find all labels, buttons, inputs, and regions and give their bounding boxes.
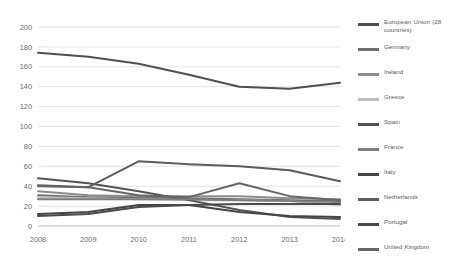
y-axis-tick-label: 160	[20, 62, 32, 71]
line-chart: 0204060801001201401601802002008200920102…	[0, 0, 450, 260]
legend-color-swatch	[358, 48, 379, 51]
legend-color-swatch	[358, 98, 379, 101]
chart-canvas: 0204060801001201401601802002008200920102…	[0, 0, 345, 260]
legend-color-swatch	[358, 248, 379, 251]
y-axis-tick-label: 20	[24, 202, 32, 211]
legend-item[interactable]: Greece	[358, 93, 450, 111]
legend-item[interactable]: Italy	[358, 168, 450, 186]
legend-color-swatch	[358, 73, 379, 76]
x-axis-tick-label: 2009	[80, 235, 96, 244]
legend-item-label: Portugal	[384, 218, 407, 226]
legend-item[interactable]: Spain	[358, 118, 450, 136]
legend-color-swatch	[358, 223, 379, 226]
legend-item-label: Ireland	[384, 68, 403, 76]
legend-item-label: Netherlands	[384, 193, 418, 201]
legend-item[interactable]: Portugal	[358, 218, 450, 236]
y-axis-tick-label: 100	[20, 122, 32, 131]
x-axis-tick-label: 2008	[30, 235, 46, 244]
legend-item[interactable]: European Union (28 countries)	[358, 18, 450, 36]
legend-item-label: United Kingdom	[384, 243, 429, 251]
legend-item-label: Greece	[384, 93, 405, 101]
y-axis-tick-label: 120	[20, 102, 32, 111]
x-axis-tick-label: 2013	[281, 235, 297, 244]
legend-item[interactable]: Netherlands	[358, 193, 450, 211]
legend-item-label: Germany	[384, 43, 410, 51]
legend-item[interactable]: Ireland	[358, 68, 450, 86]
legend-item-label: European Union (28 countries)	[384, 18, 450, 33]
y-axis-tick-label: 0	[28, 222, 32, 231]
legend-item-label: Italy	[384, 168, 396, 176]
x-axis-tick-label: 2011	[181, 235, 197, 244]
legend-item[interactable]: Germany	[358, 43, 450, 61]
y-axis-tick-label: 60	[24, 162, 32, 171]
legend-item-label: Spain	[384, 118, 400, 126]
legend-item[interactable]: France	[358, 143, 450, 161]
legend-color-swatch	[358, 173, 379, 176]
chart-legend: European Union (28 countries)GermanyIrel…	[358, 18, 450, 260]
series-line	[38, 53, 340, 89]
y-axis-tick-label: 80	[24, 142, 32, 151]
legend-item[interactable]: United Kingdom	[358, 243, 450, 260]
legend-color-swatch	[358, 198, 379, 201]
y-axis-tick-label: 180	[20, 43, 32, 52]
legend-color-swatch	[358, 148, 379, 151]
legend-color-swatch	[358, 123, 379, 126]
y-axis-tick-label: 40	[24, 182, 32, 191]
legend-item-label: France	[384, 143, 404, 151]
x-axis-tick-label: 2012	[231, 235, 247, 244]
plot-area: 0204060801001201401601802002008200920102…	[0, 0, 345, 260]
x-axis-tick-label: 2010	[130, 235, 146, 244]
y-axis-tick-label: 140	[20, 82, 32, 91]
y-axis-tick-label: 200	[20, 23, 32, 32]
legend-color-swatch	[358, 23, 379, 26]
x-axis-tick-label: 2014	[332, 235, 345, 244]
